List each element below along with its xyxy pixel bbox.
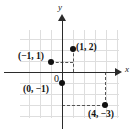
y-axis-label: y: [58, 3, 62, 12]
leader-line-point-4-neg3: [105, 72, 106, 105]
y-axis-line: [62, 16, 63, 129]
data-point-label-4-neg3: (4, −3): [88, 110, 114, 120]
x-axis-label: x: [125, 65, 129, 74]
data-point-4-neg3: [102, 102, 108, 108]
data-point-1-2: [70, 46, 76, 52]
data-point-neg1-1: [48, 59, 54, 65]
data-point-label-1-2: (1, 2): [76, 43, 97, 53]
data-point-label-neg1-1: (−1, 1): [18, 52, 44, 62]
data-point-0-neg1: [59, 80, 65, 86]
leader-line-point-4-neg3-horizontal: [62, 105, 105, 106]
data-point-label-0-neg1: (0, −1): [23, 85, 49, 95]
y-axis-arrow-icon: [58, 14, 66, 21]
x-axis-arrow-icon: [115, 68, 122, 76]
coordinate-plane-figure: ) y x 0 (−1, 1) (1, 2) (0, −1) (4, −3): [0, 0, 138, 135]
